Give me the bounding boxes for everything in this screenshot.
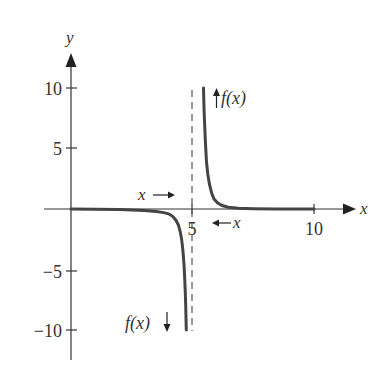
left-arrowhead-icon xyxy=(212,220,219,227)
fx-down-label: f(x) xyxy=(125,313,150,334)
right-approach-x-label: x xyxy=(232,213,241,232)
x-tick-label-10: 10 xyxy=(305,219,323,239)
down-arrowhead-icon xyxy=(164,324,171,332)
y-tick-label-10: 10 xyxy=(44,79,62,99)
left-approach-x-label: x xyxy=(137,185,146,204)
curve-left-branch xyxy=(71,209,186,330)
fx-up-label: f(x) xyxy=(221,88,246,109)
y-tick-label-5: 5 xyxy=(53,139,62,159)
y-tick-label-minus10: −10 xyxy=(34,321,62,341)
x-axis-arrow-icon xyxy=(343,204,356,215)
right-arrowhead-icon xyxy=(168,192,175,199)
up-arrowhead-icon xyxy=(213,88,220,96)
y-axis-arrow-icon xyxy=(66,53,77,67)
asymptote-plot: y x 10 5 −5 −10 5 10 x x f(x) f(x) xyxy=(0,0,390,375)
y-tick-label-minus5: −5 xyxy=(43,262,62,282)
x-axis-label: x xyxy=(359,199,368,218)
y-axis-label: y xyxy=(64,28,74,47)
